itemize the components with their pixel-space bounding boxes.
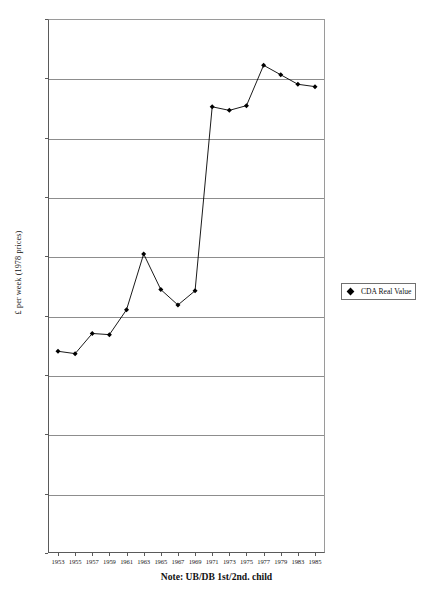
y-tick-mark xyxy=(45,494,48,495)
y-tick-mark xyxy=(45,138,48,139)
y-tick-mark xyxy=(45,78,48,79)
y-axis-title: £ per week (1978 prices) xyxy=(14,213,23,333)
x-tick-mark xyxy=(195,553,196,556)
x-tick-mark xyxy=(58,553,59,556)
x-tick-mark xyxy=(229,553,230,556)
x-tick-mark xyxy=(109,553,110,556)
gridline xyxy=(49,257,324,258)
y-tick-mark xyxy=(45,434,48,435)
x-tick-mark xyxy=(298,553,299,556)
x-tick-mark xyxy=(92,553,93,556)
legend-label-cda-real-value: CDA Real Value xyxy=(361,287,411,296)
y-tick-mark xyxy=(45,256,48,257)
chart-container: £ per week (1978 prices) 00.511.522.533.… xyxy=(0,0,433,595)
plot-area xyxy=(48,19,325,553)
gridline xyxy=(49,139,324,140)
y-tick-mark xyxy=(45,375,48,376)
x-tick-mark xyxy=(127,553,128,556)
diamond-marker-icon xyxy=(345,286,356,297)
gridline xyxy=(49,198,324,199)
gridline xyxy=(49,79,324,80)
x-tick-label: 1985 xyxy=(299,558,331,565)
chart-note: Note: UB/DB 1st/2nd. child xyxy=(0,571,433,582)
gridline xyxy=(49,495,324,496)
y-tick-mark xyxy=(45,19,48,20)
x-tick-mark xyxy=(264,553,265,556)
x-tick-mark xyxy=(161,553,162,556)
x-tick-mark xyxy=(75,553,76,556)
y-tick-mark xyxy=(45,553,48,554)
x-tick-mark xyxy=(178,553,179,556)
gridline xyxy=(49,317,324,318)
x-tick-mark xyxy=(246,553,247,556)
gridline xyxy=(49,376,324,377)
gridline xyxy=(49,435,324,436)
x-tick-mark xyxy=(212,553,213,556)
x-tick-mark xyxy=(144,553,145,556)
legend[interactable]: CDA Real Value xyxy=(341,283,416,300)
x-tick-mark xyxy=(281,553,282,556)
y-tick-mark xyxy=(45,316,48,317)
x-tick-mark xyxy=(315,553,316,556)
y-tick-mark xyxy=(45,197,48,198)
